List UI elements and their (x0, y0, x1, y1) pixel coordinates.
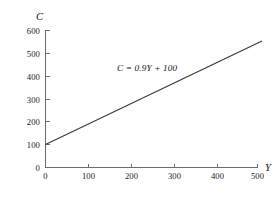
x-axis-ticks (46, 164, 258, 168)
y-tick-label-300: 300 (27, 95, 40, 105)
chart-plot-area: 600 500 400 300 200 100 0 0 100 200 300 … (0, 0, 280, 203)
consumption-line (46, 41, 263, 145)
x-tick-label-100: 100 (82, 171, 95, 181)
y-tick-label-600: 600 (27, 26, 40, 36)
x-tick-label-200: 200 (125, 171, 138, 181)
y-axis-ticks (46, 31, 50, 168)
y-tick-label-400: 400 (27, 72, 40, 82)
consumption-function-chart: 600 500 400 300 200 100 0 0 100 200 300 … (0, 0, 280, 203)
x-tick-label-500: 500 (251, 171, 264, 181)
y-tick-label-200: 200 (27, 117, 40, 127)
x-tick-label-0: 0 (43, 171, 47, 181)
x-axis-tick-labels: 0 100 200 300 400 500 (43, 171, 264, 181)
y-axis-tick-labels: 600 500 400 300 200 100 0 (27, 26, 40, 173)
y-tick-label-500: 500 (27, 49, 40, 59)
x-tick-label-300: 300 (168, 171, 181, 181)
y-axis-title: C (36, 11, 44, 22)
x-tick-label-400: 400 (211, 171, 224, 181)
y-tick-label-0: 0 (36, 163, 40, 173)
y-tick-label-100: 100 (27, 140, 40, 150)
x-axis-title: Y (265, 162, 272, 173)
equation-annotation: C = 0.9Y + 100 (117, 63, 177, 73)
